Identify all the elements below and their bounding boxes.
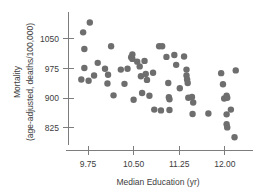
data-point (144, 77, 150, 83)
data-point (189, 111, 195, 117)
data-point (141, 58, 147, 64)
y-axis-title-line1: Mortality (12, 65, 22, 98)
x-tick-label-11-25: 11.25 (169, 159, 190, 169)
data-point (173, 62, 179, 68)
data-point (166, 96, 172, 102)
data-point (143, 71, 149, 77)
data-point (81, 46, 87, 52)
y-tick-label-900: 900 (45, 93, 59, 103)
data-point (85, 77, 91, 83)
data-point (124, 66, 130, 72)
data-point (177, 85, 183, 91)
x-tick-label-10-50: 10.50 (123, 159, 145, 169)
data-point (190, 99, 196, 105)
data-point (228, 106, 234, 112)
data-point (110, 92, 116, 98)
y-tick-labels: 1050 975 900 825 (40, 34, 59, 133)
data-point (165, 80, 171, 86)
data-point (171, 52, 177, 58)
y-tick-label-825: 825 (45, 123, 59, 133)
data-point (121, 81, 127, 87)
data-point (95, 60, 101, 66)
y-axis-title-line2: (age-adjusted, deaths/100,000) (25, 23, 35, 141)
data-point (189, 94, 195, 100)
data-point (166, 107, 172, 113)
y-tick-label-1050: 1050 (40, 34, 59, 44)
data-point (130, 96, 136, 102)
data-point (150, 70, 156, 76)
data-point (151, 106, 157, 112)
data-point (80, 29, 86, 35)
data-point (118, 66, 124, 72)
data-point (159, 43, 165, 49)
data-point (233, 67, 239, 73)
data-point (181, 53, 187, 59)
data-point (163, 54, 169, 60)
plot-surface: 1050 975 900 825 9.75 10.50 11.25 12.00 … (0, 0, 261, 191)
x-tick-label-12-00: 12.00 (214, 159, 236, 169)
data-point (102, 66, 108, 72)
data-point (78, 76, 84, 82)
data-point (136, 63, 142, 69)
scatter-plot-figure: 1050 975 900 825 9.75 10.50 11.25 12.00 … (0, 0, 261, 191)
data-point (223, 111, 229, 117)
data-point (104, 80, 110, 86)
data-point (108, 43, 114, 49)
data-point (81, 65, 87, 71)
data-point (146, 93, 152, 99)
y-tick-label-975: 975 (45, 64, 59, 74)
data-point (105, 72, 111, 78)
data-point (183, 66, 189, 72)
data-point (87, 19, 93, 25)
data-point (185, 80, 191, 86)
data-point (220, 81, 226, 87)
data-point (231, 134, 237, 140)
x-tick-label-9-75: 9.75 (80, 159, 97, 169)
data-point (224, 124, 230, 130)
x-tick-labels: 9.75 10.50 11.25 12.00 (80, 159, 236, 169)
chart-svg: 1050 975 900 825 9.75 10.50 11.25 12.00 … (0, 0, 261, 191)
x-axis-title: Median Education (yr) (116, 177, 199, 187)
data-point-layer (78, 19, 239, 140)
data-point (224, 95, 230, 101)
data-point (158, 107, 164, 113)
data-point (205, 110, 211, 116)
data-point (91, 72, 97, 78)
data-point (218, 70, 224, 76)
data-point (139, 90, 145, 96)
